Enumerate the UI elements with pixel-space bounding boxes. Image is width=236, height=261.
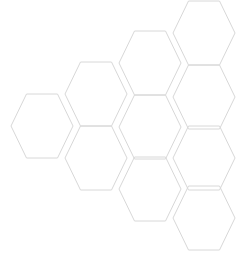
hexagon-cell <box>119 31 181 95</box>
hexagon-cell <box>173 65 235 129</box>
hexagon-pattern-canvas <box>0 0 236 261</box>
hexagon-cell <box>173 186 235 250</box>
hexagon-cell <box>65 126 127 190</box>
hexagon-cell <box>173 126 235 190</box>
hexagon-cell <box>65 62 127 126</box>
hexagon-cell <box>119 157 181 221</box>
hexagon-cell <box>11 94 73 158</box>
hexagon-cell-group <box>11 1 235 250</box>
hexagon-cell <box>119 95 181 159</box>
honeycomb-svg <box>0 0 236 261</box>
hexagon-cell <box>173 1 235 65</box>
